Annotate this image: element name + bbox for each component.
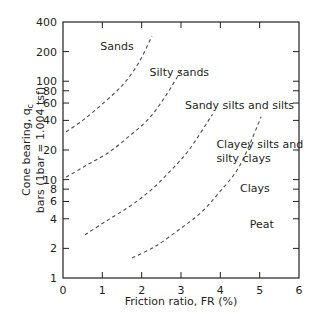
y-axis-title-line1: Cone bearing, q [20, 108, 33, 196]
x-tick-label: 1 [99, 284, 106, 297]
y-axis-title-line2: bars (1bar = 1.004 tsf) [34, 87, 47, 213]
x-axis-title: Friction ratio, FR (%) [125, 295, 238, 308]
y-tick-label: 2 [50, 242, 57, 255]
region-label: Sandy silts and silts [185, 99, 294, 112]
boundary-curve-2 [66, 71, 181, 177]
region-labels: SandsSilty sandsSandy silts and siltsCla… [100, 40, 303, 232]
region-label: Silty sands [150, 66, 210, 79]
boundary-curve-3 [85, 114, 213, 234]
y-tick-label: 200 [36, 46, 57, 59]
region-label: Sands [100, 40, 134, 53]
x-tick-label: 5 [256, 284, 263, 297]
y-tick-label: 100 [36, 75, 57, 88]
soil-classification-chart: 0123456124681020406080100200400 SandsSil… [0, 0, 319, 326]
region-label: Clays [240, 182, 270, 195]
region-label: Clayey silts and [216, 138, 303, 151]
y-axis-title: Cone bearing, qc bars (1bar = 1.004 tsf) [20, 87, 47, 213]
region-label: silty clays [216, 152, 271, 165]
x-tick-label: 0 [60, 284, 67, 297]
svg-text:Cone bearing, qc: Cone bearing, qc [20, 104, 35, 196]
region-label: Peat [250, 218, 275, 231]
y-tick-label: 4 [50, 213, 57, 226]
y-tick-label: 400 [36, 16, 57, 29]
y-tick-label: 1 [50, 272, 57, 285]
y-tick-label: 6 [50, 195, 57, 208]
x-tick-label: 6 [296, 284, 303, 297]
